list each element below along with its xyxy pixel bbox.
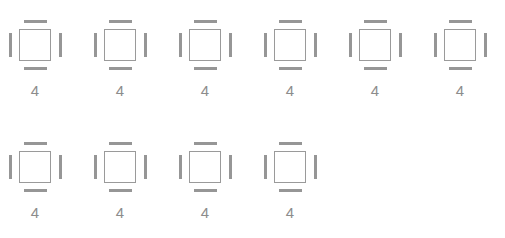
seat-top-icon: [109, 20, 132, 23]
table-top-shape: [444, 29, 476, 61]
seat-top-icon: [194, 142, 217, 145]
table-capacity-label: 4: [170, 82, 240, 100]
table-with-four-seats-icon[interactable]: 4: [0, 10, 85, 110]
table-top-shape: [19, 151, 51, 183]
seat-right-icon: [314, 155, 317, 179]
seat-top-icon: [194, 20, 217, 23]
table-capacity-label: 4: [85, 204, 155, 222]
table-top-shape: [189, 151, 221, 183]
table-top-shape: [274, 151, 306, 183]
table-top-shape: [274, 29, 306, 61]
table-capacity-label: 4: [0, 82, 70, 100]
seat-left-icon: [94, 155, 97, 179]
seat-top-icon: [24, 20, 47, 23]
table-top-shape: [19, 29, 51, 61]
seat-left-icon: [264, 33, 267, 57]
table-top-shape: [359, 29, 391, 61]
table-capacity-label: 4: [425, 82, 495, 100]
seat-bottom-icon: [279, 189, 302, 192]
table-top-shape: [104, 29, 136, 61]
seat-bottom-icon: [109, 189, 132, 192]
table-capacity-label: 4: [170, 204, 240, 222]
table-with-four-seats-icon[interactable]: 4: [85, 132, 170, 232]
table-with-four-seats-icon[interactable]: 4: [85, 10, 170, 110]
seat-bottom-icon: [194, 189, 217, 192]
seat-left-icon: [179, 155, 182, 179]
seat-left-icon: [9, 155, 12, 179]
seat-left-icon: [434, 33, 437, 57]
seat-bottom-icon: [449, 67, 472, 70]
seat-right-icon: [59, 155, 62, 179]
seat-right-icon: [144, 155, 147, 179]
seat-top-icon: [24, 142, 47, 145]
seat-right-icon: [59, 33, 62, 57]
seat-right-icon: [399, 33, 402, 57]
seat-left-icon: [9, 33, 12, 57]
table-with-four-seats-icon[interactable]: 4: [0, 132, 85, 232]
table-layout-canvas: 444444 4444: [0, 0, 505, 238]
table-top-shape: [104, 151, 136, 183]
seat-bottom-icon: [24, 67, 47, 70]
seat-left-icon: [94, 33, 97, 57]
seat-bottom-icon: [279, 67, 302, 70]
seat-top-icon: [364, 20, 387, 23]
seat-right-icon: [144, 33, 147, 57]
seat-bottom-icon: [364, 67, 387, 70]
seat-left-icon: [264, 155, 267, 179]
seat-left-icon: [349, 33, 352, 57]
table-capacity-label: 4: [340, 82, 410, 100]
seat-top-icon: [279, 142, 302, 145]
table-row-1: 444444: [0, 10, 505, 110]
seat-right-icon: [229, 33, 232, 57]
table-row-2: 4444: [0, 132, 340, 232]
seat-top-icon: [449, 20, 472, 23]
seat-right-icon: [484, 33, 487, 57]
table-capacity-label: 4: [255, 204, 325, 222]
table-capacity-label: 4: [85, 82, 155, 100]
seat-bottom-icon: [24, 189, 47, 192]
seat-bottom-icon: [194, 67, 217, 70]
table-with-four-seats-icon[interactable]: 4: [340, 10, 425, 110]
table-with-four-seats-icon[interactable]: 4: [170, 10, 255, 110]
table-capacity-label: 4: [255, 82, 325, 100]
seat-bottom-icon: [109, 67, 132, 70]
table-capacity-label: 4: [0, 204, 70, 222]
seat-right-icon: [314, 33, 317, 57]
seat-top-icon: [109, 142, 132, 145]
table-with-four-seats-icon[interactable]: 4: [255, 10, 340, 110]
seat-top-icon: [279, 20, 302, 23]
seat-right-icon: [229, 155, 232, 179]
table-with-four-seats-icon[interactable]: 4: [170, 132, 255, 232]
table-with-four-seats-icon[interactable]: 4: [255, 132, 340, 232]
table-with-four-seats-icon[interactable]: 4: [425, 10, 505, 110]
seat-left-icon: [179, 33, 182, 57]
table-top-shape: [189, 29, 221, 61]
